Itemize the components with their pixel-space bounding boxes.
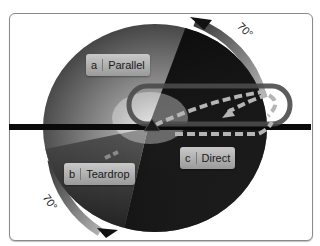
entry-label-parallel: a Parallel [86,54,150,76]
entry-label-direct: c Direct [180,147,235,169]
entry-label-teardrop: b Teardrop [64,163,135,185]
arrow-head-bottom [97,228,118,238]
